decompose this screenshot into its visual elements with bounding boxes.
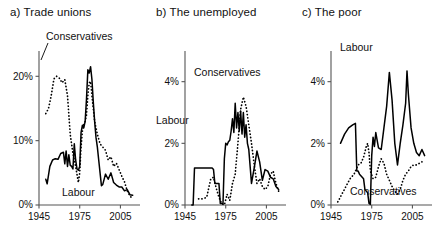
- series-annotation: Conservatives: [350, 185, 417, 197]
- x-tick-label: 1975: [361, 211, 384, 222]
- annotation-leader-line: [41, 43, 48, 60]
- x-tick-label: 2005: [109, 211, 132, 222]
- y-tick-label: 2%: [311, 138, 326, 149]
- panel-unemployed: b) The unemployed 0%2%4%194519752005Cons…: [146, 0, 292, 237]
- x-tick-label: 1975: [69, 211, 92, 222]
- series-annotation: Conservatives: [46, 30, 113, 42]
- panel-poor: c) The poor 0%2%4%194519752005LabourCons…: [292, 0, 438, 237]
- panel-a-plot: 0%10%20%194519752005ConservativesLabour: [0, 0, 146, 237]
- series-annotation: Labour: [62, 186, 95, 198]
- series-line-conservatives: [46, 76, 133, 198]
- x-tick-label: 1945: [320, 211, 343, 222]
- y-tick-label: 0%: [19, 199, 34, 210]
- series-annotation: Conservatives: [194, 66, 261, 78]
- y-tick-label: 4%: [165, 76, 180, 87]
- small-multiples-figure: a) Trade unions 0%10%20%194519752005Cons…: [0, 0, 439, 237]
- y-tick-label: 0%: [311, 199, 326, 210]
- series-annotation: Labour: [156, 114, 189, 126]
- x-tick-label: 1975: [215, 211, 238, 222]
- y-tick-label: 10%: [13, 135, 33, 146]
- x-tick-label: 1945: [174, 211, 197, 222]
- y-tick-label: 20%: [13, 71, 33, 82]
- x-tick-label: 1945: [28, 211, 51, 222]
- x-tick-label: 2005: [401, 211, 424, 222]
- panel-c-plot: 0%2%4%194519752005LabourConservatives: [292, 0, 438, 237]
- y-tick-label: 0%: [165, 199, 180, 210]
- series-line-labour: [192, 103, 279, 205]
- panel-trade-unions: a) Trade unions 0%10%20%194519752005Cons…: [0, 0, 146, 237]
- panel-b-plot: 0%2%4%194519752005ConservativesLabour: [146, 0, 292, 237]
- x-tick-label: 2005: [255, 211, 278, 222]
- y-tick-label: 4%: [311, 76, 326, 87]
- series-annotation: Labour: [340, 41, 373, 53]
- y-tick-label: 2%: [165, 138, 180, 149]
